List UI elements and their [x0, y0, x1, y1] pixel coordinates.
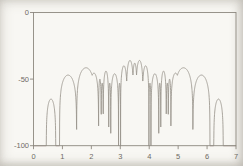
x-tick-label: 7	[234, 152, 238, 161]
y-tick-label: 0	[25, 8, 29, 17]
figure: 012345670-50-100	[0, 0, 243, 166]
x-tick-label: 1	[60, 152, 64, 161]
x-tick-label: 6	[205, 152, 209, 161]
x-tick-label: 0	[31, 152, 35, 161]
x-tick-label: 2	[89, 152, 93, 161]
x-tick-label: 3	[118, 152, 122, 161]
response-curve	[34, 60, 237, 145]
y-tick-label: -100	[14, 141, 29, 150]
x-tick-label: 5	[176, 152, 180, 161]
x-tick-label: 4	[147, 152, 151, 161]
magnitude-response-chart: 012345670-50-100	[0, 0, 243, 166]
y-tick-label: -50	[18, 75, 29, 84]
